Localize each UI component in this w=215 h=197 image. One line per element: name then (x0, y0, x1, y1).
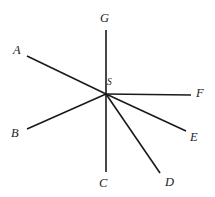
point-label-c: C (99, 177, 107, 190)
ray-line-f (106, 94, 191, 95)
point-label-f: F (196, 87, 204, 100)
point-label-b: B (11, 127, 19, 140)
point-label-d: D (165, 176, 174, 189)
geometry-figure: ABCDEFGS (0, 0, 215, 197)
point-label-e: E (190, 131, 198, 144)
rays-canvas (0, 0, 215, 197)
ray-line-a (27, 56, 106, 94)
vertex-label-s: S (107, 78, 112, 88)
ray-line-b (27, 94, 106, 129)
point-label-g: G (100, 12, 109, 25)
point-label-a: A (13, 44, 21, 57)
ray-line-group (27, 30, 191, 173)
